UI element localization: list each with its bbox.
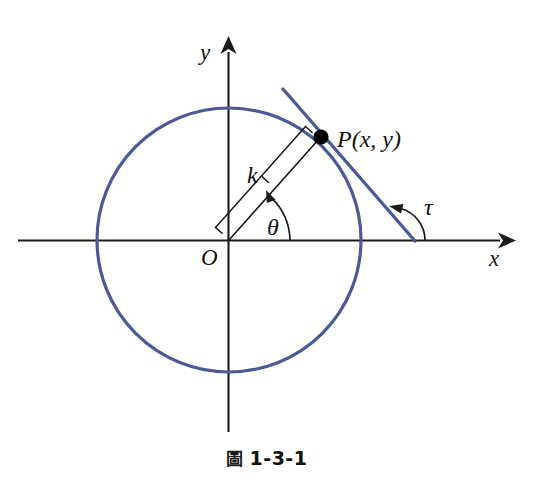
radius-length-label: k <box>247 162 258 188</box>
angle-tau-arc <box>401 209 426 241</box>
figure-caption-number: 1-3-1 <box>250 447 308 469</box>
x-axis-arrowhead <box>498 233 516 249</box>
angle-tau-indicator <box>389 204 425 241</box>
y-axis-arrowhead <box>221 36 237 54</box>
figure-caption-cjk: 圖 <box>226 449 243 469</box>
point-p-label: P(x, y) <box>336 126 401 152</box>
x-axis-label: x <box>488 246 500 271</box>
angle-tau-label: τ <box>424 194 434 220</box>
figure-caption: 圖1-3-1 <box>0 445 533 470</box>
radius-length-brace <box>216 127 313 234</box>
point-p-marker <box>313 129 328 144</box>
geometry-figure: y x O P(x, y) k θ τ <box>0 0 533 486</box>
origin-label: O <box>201 245 218 270</box>
tangent-line <box>283 89 415 241</box>
y-axis-label: y <box>198 40 211 65</box>
figure-page: y x O P(x, y) k θ τ 圖1-3-1 <box>0 0 533 486</box>
angle-theta-label: θ <box>267 214 279 240</box>
